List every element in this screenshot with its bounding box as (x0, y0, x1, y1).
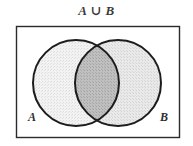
set-b-label: B (160, 111, 168, 123)
venn-diagram-canvas (0, 0, 193, 146)
venn-diagram-figure: A ∪ B (0, 0, 193, 146)
set-a-label: A (28, 111, 36, 123)
